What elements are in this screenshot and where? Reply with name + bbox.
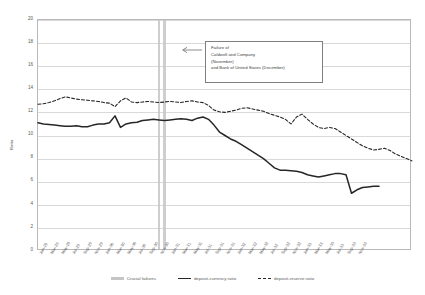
annotation-line-4: and Bank of United States (December)	[211, 65, 319, 72]
y-axis-tick-label: 14	[18, 86, 33, 91]
y-axis-tick-label: 12	[18, 109, 33, 114]
y-axis-tick-label: 18	[18, 40, 33, 45]
annotation-line-3: (November)	[211, 59, 319, 66]
annotation-callout: Failure of Caldwell and Company (Novembe…	[205, 41, 323, 83]
y-axis-tick-label: 10	[18, 132, 33, 137]
legend-item-crucial-failures: Crucial failures	[111, 276, 156, 281]
legend-item-deposit-currency-ratio: deposit-currency ratio	[178, 276, 236, 281]
annotation-line-2: Caldwell and Company	[211, 52, 319, 59]
y-axis-tick-label: 8	[18, 155, 33, 160]
y-axis-tick-label: 20	[18, 17, 33, 22]
y-axis-tick-label: 2	[18, 225, 33, 230]
y-axis-tick-label: 4	[18, 202, 33, 207]
legend-swatch-bar-icon	[111, 277, 124, 279]
y-axis-tick-label: 0	[18, 248, 33, 253]
legend-swatch-solid-line-icon	[178, 278, 191, 280]
annotation-line-1: Failure of	[211, 45, 319, 52]
series-line-deposit-reserve-ratio	[38, 97, 412, 161]
y-axis-tick-label: 6	[18, 178, 33, 183]
legend-label-deposit-reserve-ratio: deposit-reserve ratio	[274, 276, 314, 281]
legend-item-deposit-reserve-ratio: deposit-reserve ratio	[258, 276, 314, 281]
legend-label-deposit-currency-ratio: deposit-currency ratio	[194, 276, 236, 281]
legend-label-crucial-failures: Crucial failures	[127, 276, 156, 281]
y-axis-title: Ratio	[9, 140, 14, 150]
legend-swatch-dashed-line-icon	[258, 278, 271, 279]
chart-legend: Crucial failures deposit-currency ratio …	[0, 276, 425, 281]
y-axis-tick-label: 16	[18, 63, 33, 68]
chart-container: Ratio 02468101214161820 Jan-29Mar-29May-…	[0, 0, 425, 295]
left-arrow-icon	[181, 46, 203, 54]
